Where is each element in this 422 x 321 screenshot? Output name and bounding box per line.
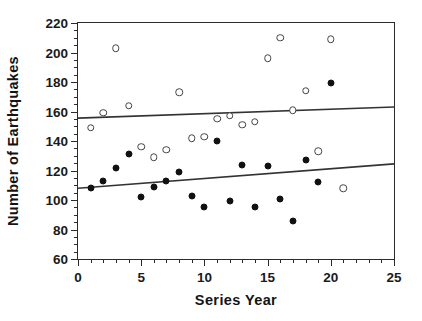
y-axis-minor-tick (74, 193, 78, 194)
y-axis-major-tick (71, 141, 78, 142)
x-axis-minor-tick (116, 259, 117, 263)
data-point-filled-circle (100, 177, 107, 184)
y-axis-tick-label: 140 (45, 134, 68, 149)
y-axis-major-tick (71, 259, 78, 260)
y-axis-minor-tick (74, 97, 78, 98)
y-axis-major-tick (71, 23, 78, 24)
data-point-filled-circle (176, 168, 183, 175)
y-axis-major-tick (71, 230, 78, 231)
x-axis-major-tick (268, 259, 269, 266)
data-point-open-circle (175, 89, 183, 97)
x-axis-major-tick (141, 259, 142, 266)
data-point-filled-circle (302, 157, 309, 164)
data-point-filled-circle (138, 194, 145, 201)
x-axis-tick-label: 0 (74, 270, 82, 285)
y-axis-minor-tick (74, 67, 78, 68)
data-point-filled-circle (214, 138, 221, 145)
data-point-open-circle (314, 148, 322, 156)
x-axis-minor-tick (103, 259, 104, 263)
x-axis-major-tick (331, 259, 332, 266)
data-point-filled-circle (239, 161, 246, 168)
trend-lines (78, 23, 394, 259)
y-axis-title: Number of Earthquakes (2, 22, 24, 260)
x-axis-minor-tick (91, 259, 92, 263)
y-axis-minor-tick (74, 30, 78, 31)
y-axis-minor-tick (74, 75, 78, 76)
data-point-open-circle (213, 115, 221, 123)
x-axis-minor-tick (369, 259, 370, 263)
data-point-open-circle (112, 44, 120, 52)
y-axis-minor-tick (74, 148, 78, 149)
y-axis-minor-tick (74, 163, 78, 164)
x-axis-major-tick (394, 259, 395, 266)
data-layer (78, 23, 394, 259)
data-point-filled-circle (264, 163, 271, 170)
data-point-filled-circle (226, 198, 233, 205)
y-axis-minor-tick (74, 252, 78, 253)
data-point-open-circle (302, 87, 310, 95)
data-point-filled-circle (327, 80, 334, 87)
y-axis-minor-tick (74, 134, 78, 135)
earthquake-scatter-figure: Number of Earthquakes 608010012014016018… (0, 0, 422, 321)
x-axis-minor-tick (154, 259, 155, 263)
y-axis-major-tick (71, 112, 78, 113)
data-point-open-circle (188, 134, 196, 142)
y-axis-major-tick (71, 171, 78, 172)
data-point-filled-circle (87, 185, 94, 192)
y-axis-tick-label: 100 (45, 193, 68, 208)
y-axis-tick-label: 160 (45, 104, 68, 119)
y-axis-tick-label: 220 (45, 16, 68, 31)
data-point-filled-circle (163, 177, 170, 184)
data-point-open-circle (289, 106, 297, 114)
y-axis-minor-tick (74, 222, 78, 223)
data-point-open-circle (276, 34, 284, 42)
x-axis-major-tick (204, 259, 205, 266)
y-axis-major-tick (71, 53, 78, 54)
y-axis-minor-tick (74, 126, 78, 127)
x-axis-minor-tick (306, 259, 307, 263)
data-point-filled-circle (125, 151, 132, 158)
data-point-open-circle (340, 184, 348, 192)
x-axis-minor-tick (179, 259, 180, 263)
data-point-open-circle (251, 118, 259, 126)
x-axis-minor-tick (381, 259, 382, 263)
y-axis-tick-label: 180 (45, 75, 68, 90)
data-point-filled-circle (315, 179, 322, 186)
data-point-open-circle (239, 121, 247, 129)
data-point-filled-circle (251, 204, 258, 211)
x-axis-minor-tick (280, 259, 281, 263)
y-axis-minor-tick (74, 244, 78, 245)
x-axis-minor-tick (343, 259, 344, 263)
data-point-open-circle (163, 146, 171, 154)
data-point-open-circle (327, 35, 335, 43)
data-point-open-circle (264, 55, 272, 63)
data-point-filled-circle (112, 164, 119, 171)
x-axis-minor-tick (192, 259, 193, 263)
plot-area: 60801001201401601802002200510152025 (77, 22, 395, 260)
x-axis-tick-label: 20 (323, 270, 338, 285)
x-axis-tick-label: 10 (197, 270, 212, 285)
x-axis-minor-tick (129, 259, 130, 263)
x-axis-minor-tick (255, 259, 256, 263)
y-axis-major-tick (71, 200, 78, 201)
y-axis-tick-label: 120 (45, 163, 68, 178)
data-point-open-circle (125, 102, 133, 110)
x-axis-tick-label: 15 (260, 270, 275, 285)
y-axis-minor-tick (74, 89, 78, 90)
y-axis-minor-tick (74, 60, 78, 61)
x-axis-minor-tick (356, 259, 357, 263)
x-axis-minor-tick (293, 259, 294, 263)
y-axis-tick-label: 200 (45, 45, 68, 60)
y-axis-minor-tick (74, 215, 78, 216)
y-axis-minor-tick (74, 237, 78, 238)
y-axis-minor-tick (74, 45, 78, 46)
data-point-filled-circle (277, 195, 284, 202)
x-axis-tick-label: 5 (137, 270, 145, 285)
x-axis-title: Series Year (77, 292, 395, 308)
data-point-open-circle (226, 112, 234, 120)
x-axis-minor-tick (217, 259, 218, 263)
y-axis-minor-tick (74, 207, 78, 208)
data-point-filled-circle (150, 183, 157, 190)
data-point-open-circle (100, 109, 108, 117)
y-axis-minor-tick (74, 119, 78, 120)
